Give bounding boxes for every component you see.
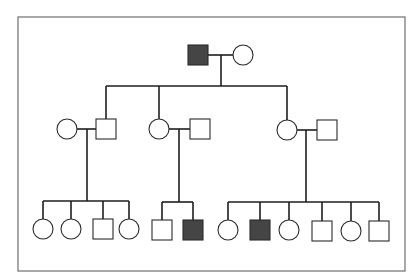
affected-male-symbol-I-1 <box>188 45 208 65</box>
affected-male-symbol-III-6 <box>183 220 203 240</box>
unaffected-male-symbol-III-10 <box>312 221 332 241</box>
unaffected-male-symbol-II-2 <box>96 119 116 139</box>
unaffected-female-symbol-III-1 <box>33 219 53 239</box>
unaffected-female-symbol-III-7 <box>218 220 238 240</box>
unaffected-female-symbol-I-2 <box>233 45 253 65</box>
pedigree-chart <box>0 0 419 279</box>
unaffected-male-symbol-III-5 <box>152 220 172 240</box>
unaffected-female-symbol-II-5 <box>277 120 297 140</box>
unaffected-female-symbol-III-4 <box>119 219 139 239</box>
unaffected-female-symbol-III-9 <box>279 220 299 240</box>
unaffected-female-symbol-II-1 <box>57 119 77 139</box>
unaffected-female-symbol-III-2 <box>61 219 81 239</box>
unaffected-male-symbol-II-6 <box>317 120 337 140</box>
unaffected-male-symbol-III-3 <box>93 219 113 239</box>
unaffected-female-symbol-III-11 <box>341 221 361 241</box>
pedigree-canvas <box>0 0 419 279</box>
unaffected-male-symbol-II-4 <box>190 119 210 139</box>
affected-male-symbol-III-8 <box>250 220 270 240</box>
unaffected-female-symbol-II-3 <box>149 119 169 139</box>
unaffected-male-symbol-III-12 <box>369 221 389 241</box>
